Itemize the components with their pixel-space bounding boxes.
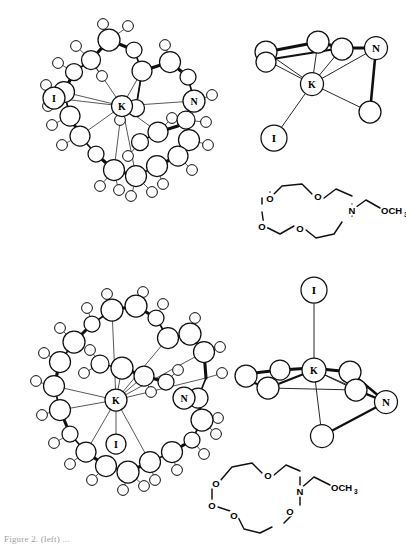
nitrogen-label: N (297, 486, 304, 497)
skeletal-formula-upper: O O O O N OCH 3 (248, 176, 400, 248)
atom-label-potassium: K (308, 79, 316, 90)
oxygen-label: O (286, 506, 293, 517)
atom-label-potassium: K (112, 395, 120, 406)
methoxy-sidechain-label-lower: OCH 3 (331, 482, 358, 495)
oxygen-label: O (208, 500, 215, 511)
methoxy-label: OCH (331, 482, 352, 493)
figure-caption: Figure 2. (left) ... (4, 534, 402, 544)
atom-label-iodide: I (312, 284, 316, 296)
atom-label-potassium: K (310, 365, 318, 376)
coordination-polyhedron-lower: I K N (240, 272, 400, 447)
atom-label-iodide: I (272, 132, 276, 144)
atom-label-nitrogen: N (382, 396, 390, 408)
atom-label-nitrogen: N (180, 393, 188, 404)
figure-root: K N I (0, 0, 406, 544)
oxygen-label: O (264, 470, 271, 481)
oxygen-label: O (266, 193, 273, 204)
atom-label-nitrogen: N (190, 96, 198, 107)
nitrogen-label: N (349, 205, 356, 216)
atom-label-iodide: I (52, 93, 56, 104)
methoxy-subscript: 3 (354, 488, 358, 495)
oxygen-label: O (230, 510, 237, 521)
atom-label-nitrogen: N (372, 42, 380, 54)
coordination-polyhedron-upper: N K I (246, 18, 396, 158)
skeletal-formula-lower: O O O O O N OCH 3 (200, 455, 360, 541)
heteroatom-labels-upper: O O O O N (256, 190, 357, 233)
methoxy-label: OCH (381, 205, 402, 216)
methoxy-sidechain-label-upper: OCH 3 (381, 205, 406, 218)
ortep-structure-upper: K N I (18, 14, 233, 224)
heteroatom-labels-lower: O O O O O N (206, 469, 305, 520)
oxygen-label: O (296, 223, 303, 234)
oxygen-label: O (314, 191, 321, 202)
oxygen-label: O (258, 221, 265, 232)
atom-label-potassium: K (118, 101, 126, 112)
atom-label-iodide: I (114, 439, 118, 450)
oxygen-label: O (212, 478, 219, 489)
